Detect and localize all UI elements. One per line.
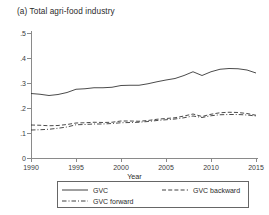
legend-key-solid	[62, 190, 88, 191]
x-tick-mark	[256, 158, 257, 162]
x-tick-mark	[121, 158, 122, 162]
x-tick-label: 2010	[196, 164, 226, 171]
x-tick-mark	[211, 158, 212, 162]
y-tick-mark	[27, 58, 31, 59]
y-tick-label: .4	[10, 55, 26, 62]
x-tick-label: 1995	[61, 164, 91, 171]
y-tick-mark	[27, 108, 31, 109]
legend-key-dash-dot	[62, 201, 88, 202]
legend-label: GVC backward	[193, 185, 240, 196]
x-axis-title: Year	[0, 172, 269, 181]
chart-legend: GVCGVC backwardGVC forward	[57, 181, 249, 208]
x-tick-label: 2005	[151, 164, 181, 171]
series-line-gvc-backward	[31, 112, 256, 126]
series-line-gvc	[31, 69, 256, 96]
y-tick-label: .1	[10, 130, 26, 137]
y-tick-label: .2	[10, 105, 26, 112]
x-axis-line	[30, 158, 258, 159]
y-tick-label: 0	[10, 155, 26, 162]
legend-label: GVC	[93, 185, 108, 196]
x-tick-label: 2000	[106, 164, 136, 171]
y-tick-label: .3	[10, 80, 26, 87]
legend-label: GVC forward	[93, 196, 133, 207]
x-tick-mark	[76, 158, 77, 162]
legend-key-dashed	[162, 190, 188, 191]
y-axis-line	[31, 31, 32, 160]
x-tick-label: 2015	[241, 164, 269, 171]
chart-figure: (a) Total agri-food industry 0.1.2.3.4.5…	[0, 0, 269, 215]
y-tick-mark	[27, 133, 31, 134]
series-line-gvc-forward	[31, 115, 256, 131]
x-tick-mark	[31, 158, 32, 162]
x-tick-mark	[166, 158, 167, 162]
y-tick-mark	[27, 33, 31, 34]
y-tick-label: .5	[10, 30, 26, 37]
chart-title: (a) Total agri-food industry	[17, 7, 115, 16]
x-tick-label: 1990	[16, 164, 46, 171]
y-tick-mark	[27, 83, 31, 84]
